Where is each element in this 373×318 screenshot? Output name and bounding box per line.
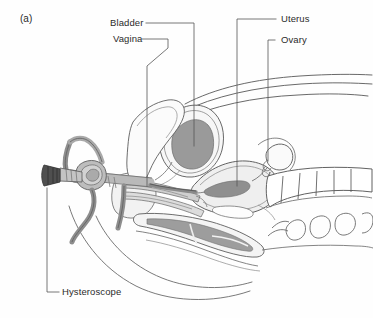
label-ovary: Ovary [281,35,307,45]
leader-hysteroscope [47,188,59,292]
label-uterus: Uterus [281,14,310,24]
rectum [133,213,264,271]
sacrum [266,167,372,208]
label-vagina: Vagina [113,34,142,44]
figure-panel: (a) Bladder Vagina Uterus Ovary Hysteros… [0,0,373,318]
coccyx [262,213,373,250]
label-bladder: Bladder [110,18,143,28]
anatomical-illustration [0,0,373,318]
panel-label: (a) [20,13,32,24]
leader-ovary [268,40,275,161]
label-hysteroscope: Hysteroscope [62,287,121,297]
